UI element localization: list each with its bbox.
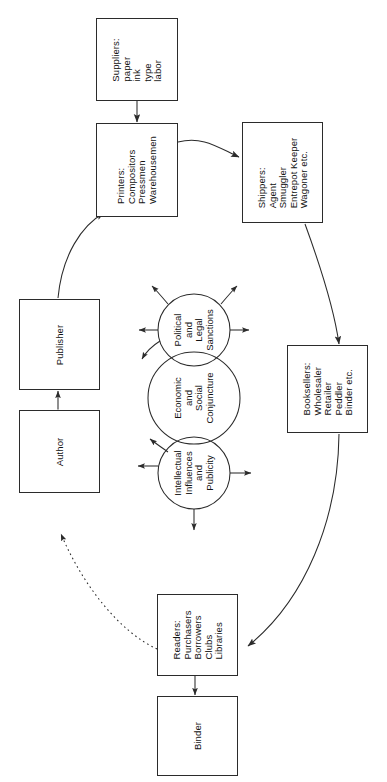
node-readers[interactable]: Readers: Purchasers Borrowers Clubs Libr…: [157, 594, 238, 676]
node-booksellers-label: Booksellers: Wholesaler Retailer Peddler…: [301, 363, 354, 416]
node-suppliers[interactable]: Suppliers: paper ink type labor: [96, 18, 178, 101]
node-suppliers-label: Suppliers: paper ink type labor: [111, 38, 164, 81]
node-booksellers[interactable]: Booksellers: Wholesaler Retailer Peddler…: [287, 345, 368, 433]
node-author[interactable]: Author: [19, 410, 100, 493]
edge-readers-to-author: [61, 534, 157, 649]
edge-booksellers-to-readers: [248, 434, 339, 646]
arrow-political-down-left: [142, 341, 160, 359]
node-shippers[interactable]: Shippers: Agent Smuggler Entrepot Keeper…: [242, 122, 323, 223]
node-binder[interactable]: Binder: [157, 696, 238, 776]
edge-publisher-to-printers: [58, 213, 104, 298]
node-publisher[interactable]: Publisher: [19, 299, 100, 390]
edge-shippers-to-booksellers: [305, 224, 339, 344]
node-author-label: Author: [54, 437, 65, 466]
circle-intellectual-publicity-label: Intellectual Influences and Publicity: [173, 450, 215, 495]
node-printers[interactable]: Printers: Compositors Pressmen Warehouse…: [96, 123, 178, 217]
arrow-political-up-right: [221, 286, 237, 304]
arrow-intellectual-up-left: [150, 439, 168, 452]
node-shippers-label: Shippers: Agent Smuggler Entrepot Keeper…: [256, 137, 309, 208]
node-readers-label: Readers: Purchasers Borrowers Clubs Libr…: [171, 610, 224, 659]
circle-political-legal-label: Political and Legal Sanctions: [173, 309, 215, 351]
edge-printers-to-shippers: [178, 140, 239, 157]
circle-economic-social-label: Economic and Social Conjuncture: [173, 372, 215, 423]
node-publisher-label: Publisher: [54, 324, 65, 365]
node-binder-label: Binder: [192, 722, 203, 750]
diagram-canvas: Suppliers: paper ink type labor Printers…: [0, 0, 387, 782]
node-printers-label: Printers: Compositors Pressmen Warehouse…: [116, 136, 158, 204]
arrow-political-up-left: [152, 286, 168, 304]
